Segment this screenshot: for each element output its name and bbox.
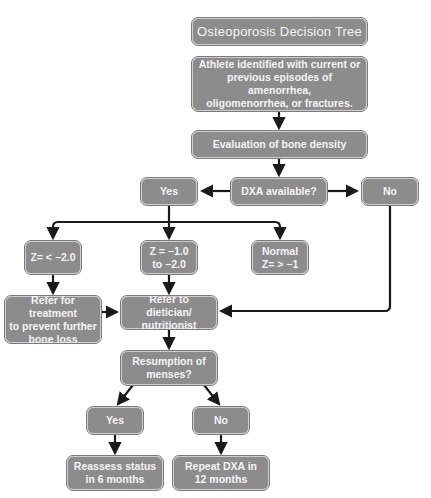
node-resumption-menses: Resumption of menses? — [121, 351, 217, 385]
node-menses-no: No — [193, 407, 249, 434]
node-menses-yes: Yes — [87, 407, 143, 434]
node-z-normal: Normal Z= > −1 — [252, 241, 308, 274]
node-athlete-identified: Athlete identified with current or previ… — [192, 57, 367, 111]
node-refer-treatment: Refer for treatment to prevent further b… — [5, 296, 101, 343]
node-dxa-yes: Yes — [141, 178, 197, 205]
diagram-title: Osteoporosis Decision Tree — [192, 18, 367, 45]
node-dxa-available: DXA available? — [231, 178, 327, 205]
node-refer-dietician: Refer to dietician/ nutritionist — [121, 296, 217, 329]
node-z-mid: Z = −1.0 to −2.0 — [141, 241, 197, 274]
node-z-low: Z= < −2.0 — [25, 241, 81, 274]
node-dxa-no: No — [362, 178, 418, 205]
node-reassess-status: Reassess status in 6 months — [67, 456, 163, 490]
node-repeat-dxa: Repeat DXA in 12 months — [173, 456, 269, 490]
node-evaluation-bone-density: Evaluation of bone density — [192, 131, 367, 158]
